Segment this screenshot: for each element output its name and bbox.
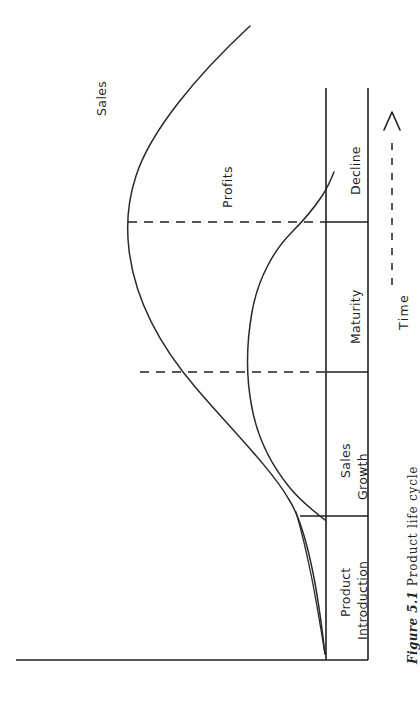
stage-label-decline: Decline (350, 146, 363, 195)
stage-label-sales-growth-line1: Sales (340, 443, 353, 478)
stage-label-product-introduction-line2: Introduction (357, 561, 370, 640)
time-arrow-head-icon (384, 112, 400, 130)
figure-product-life-cycle: Sales Profits Product Introduction Sales… (0, 0, 420, 713)
curve-label-sales: Sales (96, 81, 109, 116)
sales-curve (128, 26, 325, 654)
figure-caption-title: Product life cycle (406, 466, 420, 586)
sales-curve-introduction-tail (296, 512, 325, 654)
figure-caption: Figure 5.1 Product life cycle (406, 466, 420, 664)
curve-label-profits: Profits (222, 166, 235, 208)
axis-label-time: Time (398, 294, 411, 330)
stage-label-sales-growth-line2: Growth (357, 453, 370, 500)
figure-caption-number: Figure 5.1 (406, 591, 420, 664)
stage-label-product-introduction-line1: Product (340, 567, 353, 617)
figure-caption-text (406, 586, 420, 591)
profits-curve (248, 172, 335, 520)
stage-label-maturity: Maturity (350, 289, 363, 344)
